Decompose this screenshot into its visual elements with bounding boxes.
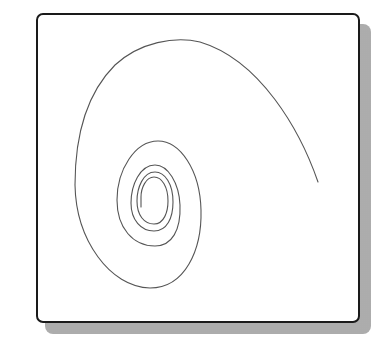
spiral-curve [75,40,318,288]
figure-canvas [0,0,384,362]
spiral-plot [0,0,384,362]
